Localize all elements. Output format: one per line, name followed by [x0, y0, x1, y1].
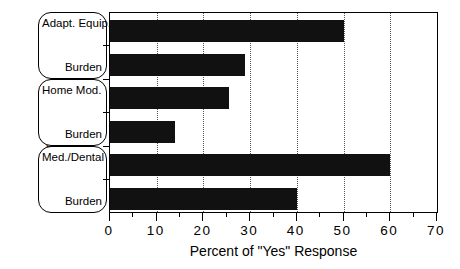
x-tick-label-70: 70	[427, 223, 445, 238]
group-label-med-dental: Med./Dental	[42, 151, 104, 164]
bar-adapt-equip-burden	[110, 54, 245, 76]
x-tick-20	[202, 213, 203, 221]
bar-adapt-equip	[110, 20, 344, 42]
x-tick-label-10: 10	[147, 223, 165, 238]
group-sublabel-adapt-equip-burden: Burden	[41, 61, 102, 74]
x-tick-25	[226, 213, 227, 217]
x-tick-label-20: 20	[193, 223, 211, 238]
bar-med-dental	[110, 154, 390, 176]
x-tick-45	[319, 213, 320, 217]
x-tick-65	[413, 213, 414, 217]
x-tick-60	[389, 213, 390, 221]
x-tick-55	[366, 213, 367, 217]
x-tick-label-0: 0	[104, 223, 113, 238]
x-tick-5	[132, 213, 133, 217]
bar-chart: Family Expenses Adapt. Equip. Burden Hom…	[0, 0, 460, 269]
group-sublabel-med-dental-burden: Burden	[41, 195, 102, 208]
x-axis-title: Percent of "Yes" Response	[109, 243, 438, 259]
gridline-40	[297, 13, 298, 212]
category-group-brackets: Adapt. Equip. Burden Home Mod. Burden Me…	[38, 12, 109, 213]
bar-med-dental-burden	[110, 188, 297, 210]
gridline-20	[203, 13, 204, 212]
group-label-adapt-equip: Adapt. Equip.	[42, 17, 104, 30]
gridline-60	[390, 13, 391, 212]
x-tick-15	[179, 213, 180, 217]
x-tick-30	[249, 213, 250, 221]
x-axis	[109, 213, 438, 222]
plot-area	[109, 12, 438, 213]
x-tick-label-50: 50	[334, 223, 352, 238]
x-tick-labels: 0 10 20 30 40 50 60 70	[109, 223, 438, 241]
group-box-med-dental: Med./Dental Burden	[38, 146, 107, 213]
x-tick-label-40: 40	[287, 223, 305, 238]
gridline-10	[157, 13, 158, 212]
x-tick-50	[343, 213, 344, 221]
gridline-30	[250, 13, 251, 212]
group-sublabel-home-mod-burden: Burden	[41, 128, 102, 141]
bar-home-mod-burden	[110, 121, 175, 143]
bar-home-mod	[110, 87, 229, 109]
group-box-adapt-equip: Adapt. Equip. Burden	[38, 12, 107, 79]
x-tick-10	[156, 213, 157, 221]
x-tick-40	[296, 213, 297, 221]
x-tick-0	[109, 213, 110, 221]
x-tick-35	[273, 213, 274, 217]
gridline-50	[344, 13, 345, 212]
x-tick-70	[436, 213, 437, 221]
x-tick-label-30: 30	[240, 223, 258, 238]
group-box-home-mod: Home Mod. Burden	[38, 79, 107, 146]
group-label-home-mod: Home Mod.	[42, 84, 104, 97]
x-tick-label-60: 60	[380, 223, 398, 238]
